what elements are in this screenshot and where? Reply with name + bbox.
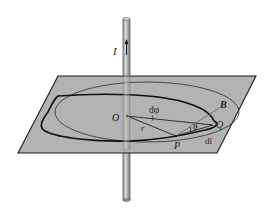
label-dl: dl (205, 136, 213, 146)
point-p (175, 135, 177, 137)
wire-rod-upper (123, 18, 130, 150)
label-point-q: Q (216, 119, 224, 130)
label-origin-o: O (112, 112, 119, 123)
ampere-loop-diagram: I O dφ r θ Q B P dl (0, 0, 273, 219)
label-point-p: P (173, 140, 180, 151)
label-theta: θ (193, 122, 198, 132)
label-field-b: B (219, 99, 227, 110)
label-radius-r: r (141, 123, 145, 133)
wire-rod-lower (123, 150, 130, 201)
label-current-i: I (112, 45, 118, 57)
label-dphi: dφ (149, 105, 160, 115)
